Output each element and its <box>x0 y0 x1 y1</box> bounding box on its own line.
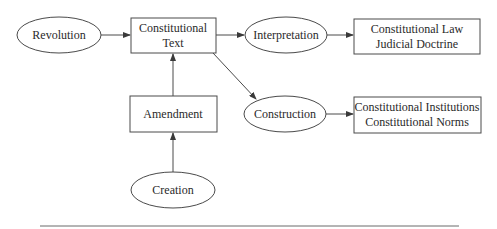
edge-text-to-construction <box>213 53 256 99</box>
node-constitutional-text: Constitutional Text <box>131 18 216 53</box>
node-label: Revolution <box>32 28 85 42</box>
node-construction: Construction <box>244 96 326 132</box>
node-label-line1: Constitutional Institutions <box>354 100 479 114</box>
node-label: Amendment <box>143 107 203 121</box>
node-label: Interpretation <box>253 28 318 42</box>
node-creation: Creation <box>131 172 215 208</box>
node-label-line1: Constitutional <box>139 21 208 35</box>
node-amendment: Amendment <box>130 96 217 132</box>
node-label: Creation <box>152 183 193 197</box>
node-label-line1: Constitutional Law <box>371 22 464 36</box>
constitutional-flow-diagram: Revolution Constitutional Text Interpret… <box>0 0 497 229</box>
node-label-line2: Text <box>162 36 184 50</box>
node-interpretation: Interpretation <box>245 17 327 53</box>
node-constitutional-law: Constitutional Law Judicial Doctrine <box>354 19 480 54</box>
node-label-line2: Constitutional Norms <box>365 115 469 129</box>
node-revolution: Revolution <box>17 17 101 53</box>
node-label-line2: Judicial Doctrine <box>376 37 458 51</box>
node-constitutional-institutions: Constitutional Institutions Constitution… <box>354 97 481 133</box>
node-label: Construction <box>254 107 316 121</box>
